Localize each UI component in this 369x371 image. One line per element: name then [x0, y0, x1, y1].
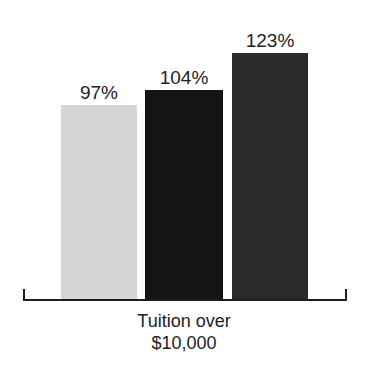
bar-1	[61, 105, 137, 300]
data-label-2: 104%	[134, 67, 234, 89]
data-label-3: 123%	[220, 30, 320, 52]
bar-3	[232, 53, 308, 300]
bar-2	[145, 90, 223, 300]
x-axis-line	[23, 299, 347, 301]
category-label-line-1: Tuition over	[84, 310, 284, 332]
x-axis-tick-left	[23, 289, 25, 301]
x-axis-tick-right	[345, 289, 347, 301]
category-label-line-2: $10,000	[84, 332, 284, 354]
